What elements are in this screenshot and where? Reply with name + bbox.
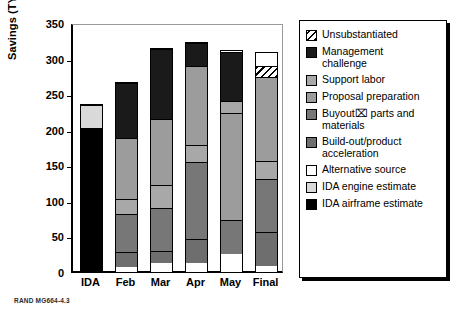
bar-segment-alternative-source[interactable] [116,267,137,272]
bar-segment-proposal-preparation[interactable] [116,138,137,199]
y-tick-label: 100 [46,196,64,208]
legend-item-label: Alternative source [322,164,406,176]
legend-item-build-out-product-acceleration[interactable]: Build-out/productacceleration [306,136,440,159]
legend-item-label: Support labor [322,74,385,86]
x-axis-tick-labels: IDAFebMarAprMayFinal [73,276,283,294]
y-axis-title: Savings (TY $millions) [6,0,18,60]
legend: UnsubstantiatedManagementchallengeSuppor… [299,20,447,278]
legend-swatch-icon [306,30,317,41]
bar-segment-support-labor[interactable] [221,101,242,113]
y-tick-label: 150 [46,160,64,172]
legend-swatch-icon [306,47,317,58]
bar-segment-support-labor[interactable] [151,185,172,208]
legend-item-ida-engine-estimate[interactable]: IDA engine estimate [306,181,440,193]
chart-figure: Savings (TY $millions) 05010015020025030… [0,0,456,318]
bar-segment-alternative-source[interactable] [186,263,207,272]
bar-segment-build-out-product-acceleration[interactable] [256,232,277,266]
legend-item-label: Build-out/productacceleration [322,136,401,159]
bar-segment-management-challenge[interactable] [221,52,242,102]
bar-feb[interactable] [115,82,138,273]
bar-segment-management-challenge[interactable] [186,43,207,66]
legend-swatch-icon [306,75,317,86]
bar-segment-support-labor[interactable] [256,161,277,179]
bar-final[interactable] [255,52,278,273]
y-tick-label: 250 [46,89,64,101]
legend-item-label: IDA engine estimate [322,181,416,193]
bar-mar[interactable] [150,48,173,273]
bar-segment-proposal-preparation[interactable] [256,77,277,161]
y-tick-label: 0 [58,267,64,279]
bar-segment-proposal-preparation[interactable] [221,113,242,220]
legend-item-label: Proposal preparation [322,91,419,103]
bar-segment-alternative-source[interactable] [151,263,172,272]
bar-ida[interactable] [80,104,103,273]
legend-item-support-labor[interactable]: Support labor [306,74,440,86]
bar-may[interactable] [220,50,243,273]
y-tick-label: 200 [46,125,64,137]
bar-segment-support-labor[interactable] [116,199,137,213]
bar-group [73,24,283,273]
plot-area: Savings (TY $millions) 05010015020025030… [0,0,292,300]
bar-segment-buyout-parts-materials[interactable] [116,214,137,252]
legend-item-label: Unsubstantiated [322,29,398,41]
bar-segment-ida-engine-estimate[interactable] [81,105,102,128]
legend-item-unsubstantiated[interactable]: Unsubstantiated [306,29,440,41]
y-tick-label: 300 [46,54,64,66]
legend-item-management-challenge[interactable]: Managementchallenge [306,46,440,69]
y-tick-label: 50 [52,231,64,243]
bar-segment-buyout-parts-materials[interactable] [221,220,242,253]
bar-segment-support-labor[interactable] [186,145,207,163]
legend-swatch-icon [306,109,317,120]
legend-swatch-icon [306,92,317,103]
bar-segment-management-challenge[interactable] [151,49,172,119]
legend-item-proposal-preparation[interactable]: Proposal preparation [306,91,440,103]
legend-swatch-icon [306,182,317,193]
y-axis-tick-labels: 050100150200250300350 [28,0,64,300]
legend-item-ida-airframe-estimate[interactable]: IDA airframe estimate [306,198,440,210]
x-tick-label-final: Final [243,276,289,288]
y-tick-label: 350 [46,18,64,30]
legend-item-buyout-parts-materials[interactable]: Buyout⌧ parts andmaterials [306,108,440,131]
legend-item-label: IDA airframe estimate [322,198,423,210]
bar-segment-build-out-product-acceleration[interactable] [151,251,172,263]
bar-segment-buyout-parts-materials[interactable] [186,162,207,238]
bar-segment-build-out-product-acceleration[interactable] [186,239,207,263]
bar-segment-ida-airframe-estimate[interactable] [81,128,102,272]
bar-segment-unsubstantiated[interactable] [256,66,277,77]
legend-swatch-icon [306,165,317,176]
bar-segment-proposal-preparation[interactable] [151,119,172,184]
bar-segment-buyout-parts-materials[interactable] [256,179,277,232]
bar-segment-proposal-preparation[interactable] [186,66,207,144]
legend-item-label: Buyout⌧ parts andmaterials [322,108,414,131]
bar-segment-buyout-parts-materials[interactable] [151,208,172,251]
bar-segment-build-out-product-acceleration[interactable] [116,252,137,267]
figure-credit: RAND MG664-4.3 [14,297,70,304]
legend-swatch-icon [306,137,317,148]
bar-segment-alternative-source[interactable] [221,254,242,272]
bar-segment-management-challenge[interactable] [116,83,137,138]
legend-item-label: Managementchallenge [322,46,383,69]
bar-segment-alternative-source[interactable] [256,266,277,272]
bar-apr[interactable] [185,42,208,273]
legend-swatch-icon [306,199,317,210]
legend-item-alternative-source[interactable]: Alternative source [306,164,440,176]
